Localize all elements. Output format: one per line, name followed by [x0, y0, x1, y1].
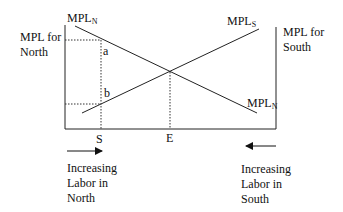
- mpl-north-label-top: MPLN: [67, 11, 97, 29]
- point-b-label: b: [104, 86, 110, 100]
- mpl-diagram: MPLN MPLS MPLN MPL for North MPL for Sou…: [0, 0, 343, 212]
- tick-s-label: S: [96, 132, 103, 146]
- left-axis-label: MPL for North: [20, 30, 61, 60]
- mpl-south-label: MPLS: [227, 14, 256, 32]
- right-axis-label: MPL for South: [283, 25, 324, 55]
- mpl-north-curve: [75, 26, 257, 113]
- mpl-north-label-bottom: MPLN: [247, 96, 277, 114]
- point-a-label: a: [103, 44, 108, 58]
- caption-south: Increasing Labor in South: [241, 162, 291, 207]
- tick-e-label: E: [166, 131, 173, 145]
- caption-north: Increasing Labor in North: [67, 161, 117, 206]
